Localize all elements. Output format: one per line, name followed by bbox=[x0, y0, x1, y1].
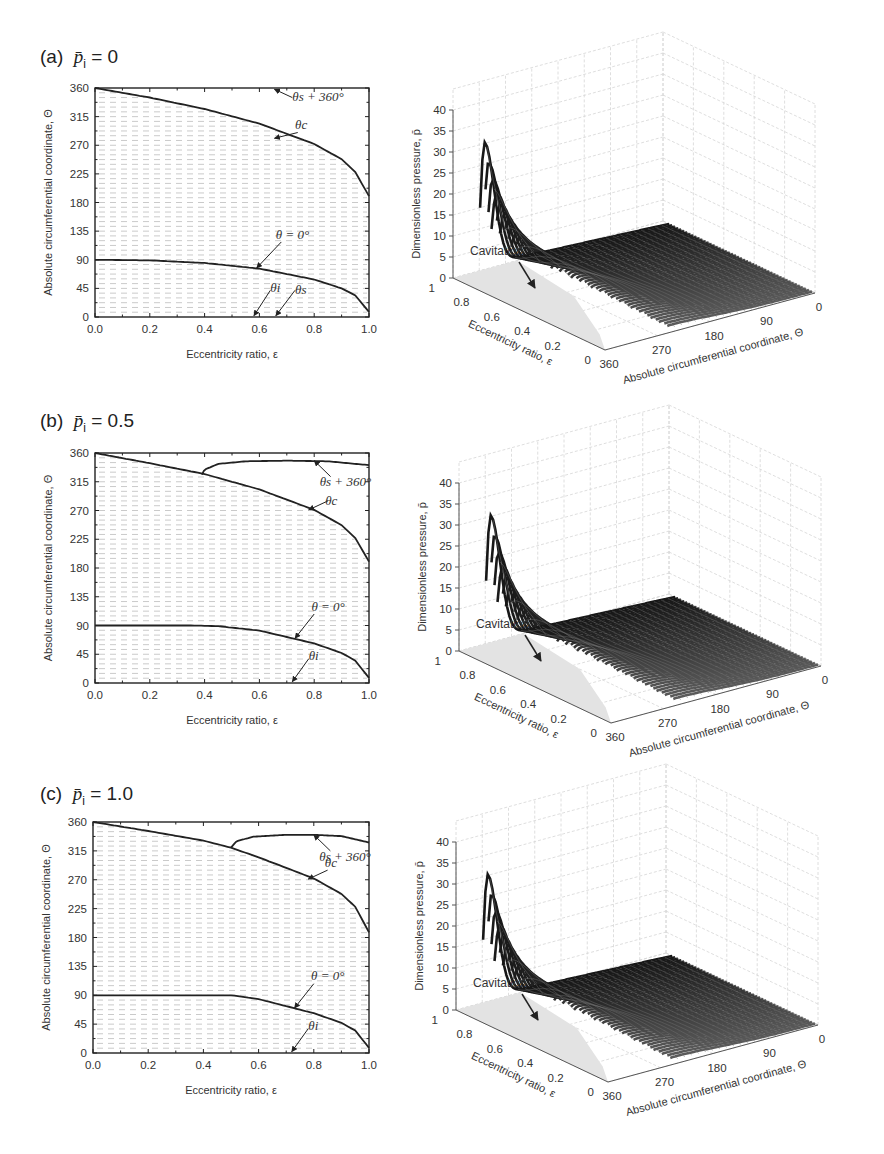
line-chart-c: 045901351802252703153600.00.20.40.60.81.… bbox=[40, 816, 377, 1096]
theta-tick-label: 360 bbox=[599, 358, 618, 370]
curve--0- bbox=[93, 995, 369, 1048]
annotation-theta-c: θc bbox=[325, 855, 337, 870]
curve--c bbox=[95, 88, 369, 196]
x-tick-label: 0.4 bbox=[197, 689, 214, 701]
z-tick-label: 40 bbox=[433, 104, 446, 116]
z-tick-label: 10 bbox=[436, 962, 449, 974]
eps-tick-label: 0.6 bbox=[487, 1043, 503, 1055]
z-tick-label: 0 bbox=[446, 645, 452, 657]
eps-axis-label: Eccentricity ratio, ε bbox=[473, 690, 561, 740]
theta-tick-label: 90 bbox=[760, 315, 773, 327]
theta-tick-label: 360 bbox=[602, 1090, 621, 1102]
eps-tick-label: 0.6 bbox=[484, 311, 500, 323]
y-tick-label: 0 bbox=[83, 677, 89, 689]
cavitation-label: Cavitation bbox=[476, 617, 529, 631]
z-tick-label: 35 bbox=[433, 125, 446, 137]
theta-tick-label: 180 bbox=[704, 330, 723, 342]
annotation-theta-0: θ = 0° bbox=[276, 227, 309, 242]
annotation-theta-i: θi bbox=[309, 648, 319, 663]
annotation-theta-s-360: θs + 360° bbox=[292, 89, 343, 104]
figure-canvas: 045901351802252703153600.00.20.40.60.81.… bbox=[0, 0, 884, 1154]
eps-tick-label: 0.6 bbox=[490, 684, 506, 696]
y-tick-label: 135 bbox=[70, 225, 89, 237]
y-tick-label: 225 bbox=[68, 903, 87, 915]
y-tick-label: 315 bbox=[70, 476, 89, 488]
z-tick-label: 35 bbox=[436, 857, 449, 869]
theta-tick-label: 90 bbox=[763, 1047, 776, 1059]
y-axis-label: Absolute circumferential coordinate, Θ bbox=[42, 109, 54, 296]
annotation-arrow bbox=[274, 89, 292, 97]
z-tick-label: 5 bbox=[443, 983, 449, 995]
y-tick-label: 180 bbox=[70, 562, 89, 574]
y-tick-label: 315 bbox=[68, 845, 87, 857]
z-tick-label: 30 bbox=[436, 878, 449, 890]
theta-tick-label: 0 bbox=[816, 301, 822, 313]
surface-chart-b-3d: 0510152025303540Dimensionless pressure, … bbox=[416, 405, 828, 759]
theta-tick-label: 270 bbox=[655, 1076, 674, 1088]
eps-tick-label: 1 bbox=[432, 1014, 438, 1026]
z-tick-label: 5 bbox=[440, 251, 446, 263]
curve--s-360- bbox=[202, 461, 369, 475]
curve--0- bbox=[95, 260, 369, 312]
x-tick-label: 1.0 bbox=[361, 1059, 377, 1071]
line-chart-a: 045901351802252703153600.00.20.40.60.81.… bbox=[42, 82, 377, 360]
y-tick-label: 90 bbox=[76, 620, 89, 632]
y-tick-label: 135 bbox=[70, 591, 89, 603]
x-tick-label: 0.6 bbox=[251, 689, 267, 701]
curve--c bbox=[93, 822, 369, 932]
theta-tick-label: 180 bbox=[707, 1062, 726, 1074]
y-tick-label: 225 bbox=[70, 533, 89, 545]
y-tick-label: 270 bbox=[70, 505, 89, 517]
y-tick-label: 180 bbox=[68, 932, 87, 944]
eps-tick-label: 1 bbox=[435, 655, 441, 667]
cavitation-label: Cavitation bbox=[473, 976, 526, 990]
x-tick-label: 0.6 bbox=[251, 323, 267, 335]
z-tick-label: 40 bbox=[436, 836, 449, 848]
z-tick-label: 15 bbox=[436, 941, 449, 953]
y-tick-label: 45 bbox=[76, 282, 89, 294]
eps-axis-label: Eccentricity ratio, ε bbox=[470, 1049, 558, 1099]
z-tick-label: 25 bbox=[439, 540, 452, 552]
annotation-theta-i: θi bbox=[270, 280, 280, 295]
y-tick-label: 225 bbox=[70, 168, 89, 180]
line-chart-b: 045901351802252703153600.00.20.40.60.81.… bbox=[42, 447, 377, 726]
y-tick-label: 360 bbox=[68, 816, 87, 828]
x-tick-label: 0.6 bbox=[251, 1059, 267, 1071]
eps-tick-label: 0 bbox=[588, 1086, 594, 1098]
z-tick-label: 20 bbox=[436, 920, 449, 932]
y-tick-label: 270 bbox=[70, 139, 89, 151]
z-tick-label: 25 bbox=[436, 899, 449, 911]
z-tick-label: 0 bbox=[440, 272, 446, 284]
x-tick-label: 0.2 bbox=[142, 323, 158, 335]
y-tick-label: 45 bbox=[76, 648, 89, 660]
y-axis-label: Absolute circumferential coordinate, Θ bbox=[42, 474, 54, 661]
y-tick-label: 90 bbox=[74, 989, 87, 1001]
x-tick-label: 0.4 bbox=[197, 323, 214, 335]
annotation-theta-s-360: θs + 360° bbox=[320, 474, 371, 489]
z-tick-label: 10 bbox=[433, 230, 446, 242]
x-tick-label: 0.2 bbox=[140, 1059, 156, 1071]
x-tick-label: 0.2 bbox=[142, 689, 158, 701]
eps-tick-label: 0 bbox=[591, 727, 597, 739]
x-tick-label: 0.8 bbox=[306, 1059, 322, 1071]
annotation-theta-i: θi bbox=[308, 1018, 318, 1033]
theta-tick-label: 180 bbox=[710, 703, 729, 715]
x-tick-label: 0.4 bbox=[195, 1059, 212, 1071]
x-axis-label: Eccentricity ratio, ε bbox=[186, 348, 278, 360]
z-axis-label: Dimensionless pressure, p̄ bbox=[413, 861, 425, 991]
x-tick-label: 1.0 bbox=[361, 689, 377, 701]
x-tick-label: 0.0 bbox=[87, 689, 103, 701]
z-tick-label: 20 bbox=[439, 561, 452, 573]
eps-tick-label: 0.8 bbox=[456, 1028, 472, 1040]
eps-tick-label: 0.8 bbox=[459, 669, 475, 681]
z-tick-label: 15 bbox=[439, 582, 452, 594]
eps-tick-label: 0.2 bbox=[545, 340, 561, 352]
x-tick-label: 0.0 bbox=[85, 1059, 101, 1071]
y-tick-label: 45 bbox=[74, 1018, 87, 1030]
annotation-theta-c: θc bbox=[325, 493, 337, 508]
y-tick-label: 315 bbox=[70, 111, 89, 123]
eps-tick-label: 1 bbox=[429, 282, 435, 294]
annotation-arrow bbox=[308, 870, 327, 879]
eps-tick-label: 0.4 bbox=[517, 1057, 534, 1069]
surface-chart-c-3d: 0510152025303540Dimensionless pressure, … bbox=[413, 764, 825, 1118]
